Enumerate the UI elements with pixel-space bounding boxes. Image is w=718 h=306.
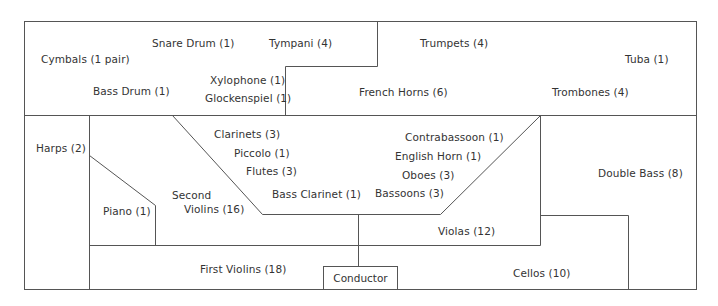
label-conductor: Conductor <box>333 272 387 284</box>
orchestra-seating-diagram: Snare Drum (1) Tympani (4) Cymbals (1 pa… <box>0 0 718 306</box>
label-tympani: Tympani (4) <box>269 37 332 49</box>
label-harps: Harps (2) <box>36 142 86 154</box>
label-english-horn: English Horn (1) <box>395 150 481 162</box>
label-piccolo: Piccolo (1) <box>234 147 290 159</box>
label-cellos: Cellos (10) <box>513 267 571 279</box>
label-trombones: Trombones (4) <box>552 86 629 98</box>
label-xylophone: Xylophone (1) <box>210 74 285 86</box>
label-piano: Piano (1) <box>103 205 151 217</box>
label-french-horns: French Horns (6) <box>359 86 448 98</box>
label-clarinets: Clarinets (3) <box>214 128 280 140</box>
percussion-brass-divider <box>286 22 378 116</box>
label-tuba: Tuba (1) <box>625 53 669 65</box>
label-second-violins-line1: Second <box>172 189 211 201</box>
label-first-violins: First Violins (18) <box>200 263 286 275</box>
conductor-box: Conductor <box>323 266 398 290</box>
section-boundaries <box>0 0 718 306</box>
label-cymbals: Cymbals (1 pair) <box>41 53 130 65</box>
label-glockenspiel: Glockenspiel (1) <box>205 92 291 104</box>
label-snare-drum: Snare Drum (1) <box>152 37 235 49</box>
label-bass-drum: Bass Drum (1) <box>93 85 170 97</box>
label-bassoons: Bassoons (3) <box>375 187 444 199</box>
label-oboes: Oboes (3) <box>402 169 454 181</box>
label-second-violins-line2: Violins (16) <box>184 203 244 215</box>
label-trumpets: Trumpets (4) <box>420 37 488 49</box>
label-bass-clarinet: Bass Clarinet (1) <box>272 188 361 200</box>
piano-divider <box>90 156 156 246</box>
label-flutes: Flutes (3) <box>246 165 297 177</box>
label-violas: Violas (12) <box>438 225 495 237</box>
label-contrabassoon: Contrabassoon (1) <box>405 131 504 143</box>
label-double-bass: Double Bass (8) <box>598 167 683 179</box>
